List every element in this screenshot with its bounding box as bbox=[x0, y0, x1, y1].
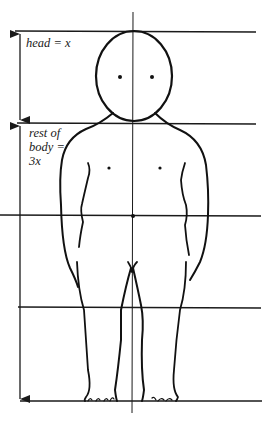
rest-of-body-label-line3: 3x bbox=[29, 154, 65, 168]
left-leg-outer bbox=[77, 262, 90, 401]
rest-of-body-label-line2: body = bbox=[29, 140, 65, 154]
proportion-diagram bbox=[0, 0, 273, 429]
right-eye bbox=[150, 75, 154, 79]
rest-of-body-label: rest of body = 3x bbox=[29, 126, 65, 168]
left-eye bbox=[118, 75, 122, 79]
right-leg-inner bbox=[133, 268, 144, 401]
head-label: head = x bbox=[26, 36, 71, 50]
rest-of-body-label-line1: rest of bbox=[29, 126, 65, 140]
guide-line-hips bbox=[0, 215, 261, 216]
navel-midpoint bbox=[131, 214, 135, 218]
left-nipple bbox=[107, 166, 110, 169]
left-shoulder-arm-outline bbox=[60, 113, 113, 287]
right-torso-side bbox=[181, 163, 189, 255]
guide-line-chin bbox=[17, 123, 256, 124]
vertical-center-line bbox=[132, 12, 133, 413]
left-leg-inner bbox=[115, 268, 131, 401]
right-leg-outer bbox=[174, 262, 187, 401]
child-figure bbox=[60, 31, 208, 401]
right-nipple bbox=[158, 166, 161, 169]
left-torso-side bbox=[79, 163, 90, 247]
head-outline bbox=[96, 31, 172, 121]
right-shoulder-arm-outline bbox=[155, 113, 208, 280]
guide-line-knees bbox=[18, 307, 261, 308]
